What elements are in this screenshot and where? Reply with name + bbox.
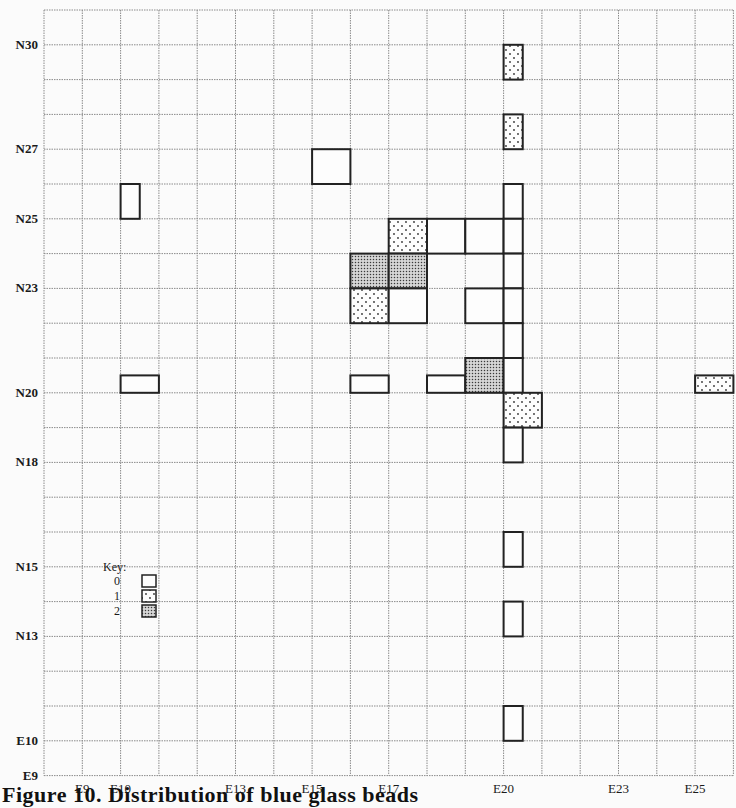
y-axis-label: N13 xyxy=(16,628,39,643)
marker-square-value-0 xyxy=(504,184,523,219)
x-axis-label: E23 xyxy=(608,781,629,796)
marker-square-value-1 xyxy=(695,375,733,392)
y-axis-label: N18 xyxy=(16,454,39,469)
figure-caption: Figure 10. Distribution of blue glass be… xyxy=(2,782,419,808)
marker-square-value-1 xyxy=(504,393,542,428)
marker-square-value-0 xyxy=(504,532,523,567)
marker-square-value-2 xyxy=(350,254,388,289)
key-title: Key: xyxy=(103,560,126,574)
y-axis-label: N20 xyxy=(16,385,38,400)
marker-square-value-0 xyxy=(504,219,523,254)
legend-key: Key:012 xyxy=(103,560,156,618)
marker-square-value-0 xyxy=(504,358,523,393)
marker-square-value-0 xyxy=(504,254,523,289)
key-swatch-empty xyxy=(142,575,156,587)
y-axis-label: E9 xyxy=(23,768,39,783)
marker-square-value-0 xyxy=(465,288,503,323)
marker-square-value-0 xyxy=(427,375,465,392)
marker-square-value-0 xyxy=(504,428,523,463)
y-axis-label: N25 xyxy=(16,211,39,226)
marker-square-value-2 xyxy=(389,254,427,289)
x-axis-label: E25 xyxy=(685,781,706,796)
marker-square-value-1 xyxy=(504,45,523,80)
marker-square-value-0 xyxy=(121,375,159,392)
key-label: 2 xyxy=(114,604,120,618)
key-swatch-stippled xyxy=(142,605,156,617)
y-axis-label: N30 xyxy=(16,37,38,52)
marker-square-value-0 xyxy=(504,706,523,741)
key-label: 0 xyxy=(114,574,120,588)
y-axis-label: N27 xyxy=(16,141,39,156)
marker-square-value-0 xyxy=(427,219,465,254)
marker-square-value-0 xyxy=(389,288,427,323)
marker-square-value-1 xyxy=(504,114,523,149)
marker-square-value-0 xyxy=(504,323,523,358)
marker-square-value-0 xyxy=(350,375,388,392)
y-axis-label: E10 xyxy=(16,733,38,748)
y-axis-label: N23 xyxy=(16,280,39,295)
marker-square-value-0 xyxy=(504,602,523,637)
marker-square-value-1 xyxy=(350,288,388,323)
marker-square-value-0 xyxy=(504,288,523,323)
marker-square-value-0 xyxy=(312,149,350,184)
marker-square-value-1 xyxy=(389,219,427,254)
x-axis-label: E20 xyxy=(493,781,514,796)
marker-square-value-0 xyxy=(121,184,140,219)
marker-square-value-2 xyxy=(465,358,503,393)
key-label: 1 xyxy=(114,589,120,603)
y-axis-labels: N30N27N25N23N20N18N15N13E10E9 xyxy=(16,37,39,783)
marker-square-value-0 xyxy=(465,219,503,254)
y-axis-label: N15 xyxy=(16,559,39,574)
key-swatch-dotted xyxy=(142,590,156,602)
